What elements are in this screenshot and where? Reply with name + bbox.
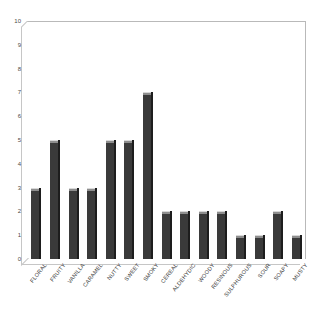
bar-top-cap (124, 140, 134, 143)
bar[interactable] (236, 235, 246, 259)
x-axis-label: MUSTY (291, 262, 308, 282)
x-axis-label: WOODY (197, 262, 216, 284)
bar-top-cap (292, 235, 302, 238)
y-axis-tick-label: 3 (18, 185, 21, 191)
bar-slot (50, 21, 60, 259)
bar[interactable] (143, 92, 153, 259)
y-axis-tick-label: 2 (18, 208, 21, 214)
x-axis-label: SOUR (256, 262, 271, 279)
bar-slot (180, 21, 190, 259)
y-axis-tick-label: 10 (14, 18, 21, 24)
x-axis-label-text: SWEET (123, 262, 141, 282)
x-axis-label: SWEET (123, 262, 141, 282)
bar-slot (143, 21, 153, 259)
x-axis-label-text: CEREAL (159, 262, 178, 284)
bar-top-cap (106, 140, 116, 143)
bar-top-cap (217, 211, 227, 214)
y-axis: 109876543210 (0, 21, 27, 265)
bar-slot (199, 21, 209, 259)
y-axis-tick-label: 0 (18, 256, 21, 262)
bar-top-cap (255, 235, 265, 238)
bar[interactable] (255, 235, 265, 259)
bar[interactable] (87, 188, 97, 259)
y-axis-tick-label: 7 (18, 89, 21, 95)
bar[interactable] (31, 188, 41, 259)
bar-top-cap (236, 235, 246, 238)
bar-top-cap (180, 211, 190, 214)
bar-slot (217, 21, 227, 259)
bar-slot (31, 21, 41, 259)
bar[interactable] (124, 140, 134, 259)
x-axis-label-text: SMOKY (142, 262, 160, 282)
bar-slot (255, 21, 265, 259)
bar-top-cap (273, 211, 283, 214)
bar-top-cap (199, 211, 209, 214)
bar[interactable] (199, 211, 209, 259)
bar-slot (236, 21, 246, 259)
y-axis-tick-label: 9 (18, 42, 21, 48)
bar-slot (69, 21, 79, 259)
y-axis-tick-label: 5 (18, 137, 21, 143)
bar-slot (162, 21, 172, 259)
bar-top-cap (143, 92, 153, 95)
x-axis-label: FRUITY (49, 262, 67, 283)
bar[interactable] (106, 140, 116, 259)
bar-chart: 109876543210 FLORALFRUITYVANILLACARAMELN… (0, 0, 324, 323)
bar[interactable] (292, 235, 302, 259)
x-axis-label-text: MUSTY (291, 262, 308, 282)
bar-slot (124, 21, 134, 259)
bar-slot (106, 21, 116, 259)
bar[interactable] (69, 188, 79, 259)
bar-slot (87, 21, 97, 259)
y-axis-tick-label: 4 (18, 161, 21, 167)
bar-slot (292, 21, 302, 259)
y-axis-tick-label: 6 (18, 113, 21, 119)
y-axis-tick-label: 1 (18, 232, 21, 238)
bar-top-cap (31, 188, 41, 191)
x-axis-label-text: NUTTY (106, 262, 123, 281)
bar-top-cap (87, 188, 97, 191)
x-axis-label: CEREAL (159, 262, 178, 284)
x-axis-label-text: SOAPY (273, 262, 290, 282)
bar[interactable] (273, 211, 283, 259)
x-axis-label-text: WOODY (197, 262, 216, 284)
x-axis-label: NUTTY (106, 262, 123, 281)
x-axis-label-text: FLORAL (29, 262, 48, 284)
y-axis-tick-label: 8 (18, 66, 21, 72)
x-axis-label: SMOKY (142, 262, 160, 282)
x-axis-label: FLORAL (29, 262, 48, 284)
bar-series (27, 21, 306, 259)
bar-slot (273, 21, 283, 259)
bar-top-cap (69, 188, 79, 191)
bar-top-cap (50, 140, 60, 143)
plot-area (27, 21, 306, 259)
x-axis-label: SOAPY (273, 262, 290, 282)
bar[interactable] (50, 140, 60, 259)
bar-top-cap (162, 211, 172, 214)
bar[interactable] (180, 211, 190, 259)
bar[interactable] (217, 211, 227, 259)
x-axis-category-labels: FLORALFRUITYVANILLACARAMELNUTTYSWEETSMOK… (27, 262, 306, 323)
bar[interactable] (162, 211, 172, 259)
x-axis-label-text: SOUR (256, 262, 271, 279)
x-axis-label-text: FRUITY (49, 262, 67, 283)
